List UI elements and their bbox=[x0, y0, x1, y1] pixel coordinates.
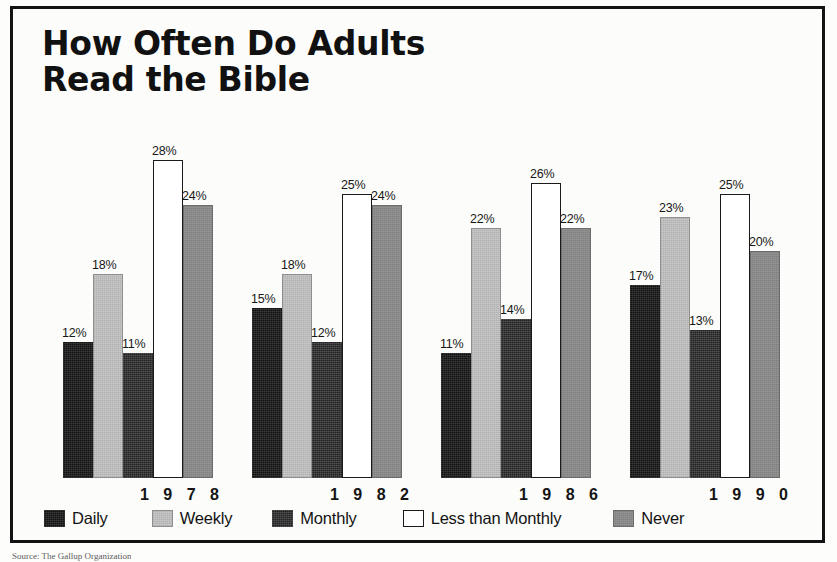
bar-value-label: 25% bbox=[719, 179, 743, 192]
bar-never-1986[interactable]: 22% bbox=[561, 120, 591, 478]
bar-rect-daily[interactable] bbox=[252, 308, 282, 478]
x-axis-year-1990: 1 9 9 0 bbox=[709, 486, 793, 504]
medium-gray-swatch bbox=[613, 510, 634, 527]
legend-item-never[interactable]: Never bbox=[613, 509, 684, 528]
bar-value-label: 18% bbox=[281, 259, 305, 272]
bar-rect-daily[interactable] bbox=[441, 353, 471, 478]
bar-group-bars: 17%23%13%25%20% bbox=[630, 120, 780, 478]
bar-value-label: 11% bbox=[122, 338, 146, 351]
bar-rect-less-than-monthly[interactable] bbox=[153, 160, 183, 478]
bar-group-bars: 11%22%14%26%22% bbox=[441, 120, 591, 478]
white-outline-swatch bbox=[403, 510, 424, 527]
x-axis-year-1978: 1 9 7 8 bbox=[140, 486, 224, 504]
bar-less-than-monthly-1982[interactable]: 25% bbox=[342, 120, 372, 478]
page-title: How Often Do Adults Read the Bible bbox=[42, 26, 602, 97]
bar-value-label: 12% bbox=[62, 327, 86, 340]
legend-item-label: Weekly bbox=[180, 509, 233, 528]
bar-value-label: 25% bbox=[341, 179, 365, 192]
bar-value-label: 17% bbox=[629, 270, 653, 283]
bar-rect-monthly[interactable] bbox=[690, 330, 720, 478]
bar-value-label: 18% bbox=[92, 259, 116, 272]
legend-item-monthly[interactable]: Monthly bbox=[272, 509, 356, 528]
black-swatch bbox=[44, 510, 65, 527]
bar-value-label: 22% bbox=[470, 213, 494, 226]
legend-item-daily[interactable]: Daily bbox=[44, 509, 108, 528]
bar-less-than-monthly-1986[interactable]: 26% bbox=[531, 120, 561, 478]
bar-never-1978[interactable]: 24% bbox=[183, 120, 213, 478]
bar-rect-weekly[interactable] bbox=[282, 274, 312, 478]
bar-rect-weekly[interactable] bbox=[471, 228, 501, 478]
bar-value-label: 20% bbox=[749, 236, 773, 249]
bar-monthly-1982[interactable]: 12% bbox=[312, 120, 342, 478]
bar-daily-1982[interactable]: 15% bbox=[252, 120, 282, 478]
bar-daily-1986[interactable]: 11% bbox=[441, 120, 471, 478]
bar-daily-1990[interactable]: 17% bbox=[630, 120, 660, 478]
bar-value-label: 24% bbox=[371, 190, 395, 203]
bar-value-label: 15% bbox=[251, 293, 275, 306]
legend-item-label: Never bbox=[641, 509, 684, 528]
bar-weekly-1990[interactable]: 23% bbox=[660, 120, 690, 478]
bar-rect-daily[interactable] bbox=[630, 285, 660, 478]
bar-never-1982[interactable]: 24% bbox=[372, 120, 402, 478]
bar-rect-monthly[interactable] bbox=[312, 342, 342, 478]
bar-value-label: 14% bbox=[500, 304, 524, 317]
light-gray-swatch bbox=[152, 510, 173, 527]
bar-rect-monthly[interactable] bbox=[123, 353, 153, 478]
bar-group-bars: 12%18%11%28%24% bbox=[63, 120, 213, 478]
bar-value-label: 26% bbox=[530, 168, 554, 181]
dark-gray-swatch bbox=[272, 510, 293, 527]
bar-rect-less-than-monthly[interactable] bbox=[342, 194, 372, 478]
bar-weekly-1986[interactable]: 22% bbox=[471, 120, 501, 478]
bar-weekly-1982[interactable]: 18% bbox=[282, 120, 312, 478]
chart-page: How Often Do Adults Read the Bible 12%18… bbox=[0, 0, 837, 562]
bar-rect-never[interactable] bbox=[750, 251, 780, 478]
legend-item-label: Monthly bbox=[300, 509, 356, 528]
source-caption: Source: The Gallup Organization bbox=[12, 551, 131, 562]
legend-item-label: Less than Monthly bbox=[431, 509, 562, 528]
x-axis-year-1982: 1 9 8 2 bbox=[330, 486, 414, 504]
bar-rect-less-than-monthly[interactable] bbox=[531, 183, 561, 478]
bar-monthly-1990[interactable]: 13% bbox=[690, 120, 720, 478]
bar-value-label: 12% bbox=[311, 327, 335, 340]
bar-value-label: 23% bbox=[659, 202, 683, 215]
legend-item-less-than-monthly[interactable]: Less than Monthly bbox=[403, 509, 562, 528]
bar-rect-daily[interactable] bbox=[63, 342, 93, 478]
bar-weekly-1978[interactable]: 18% bbox=[93, 120, 123, 478]
bar-value-label: 11% bbox=[440, 338, 464, 351]
chart-legend: DailyWeeklyMonthlyLess than MonthlyNever bbox=[44, 509, 804, 528]
bar-value-label: 13% bbox=[689, 315, 713, 328]
bar-value-label: 28% bbox=[152, 145, 176, 158]
bar-never-1990[interactable]: 20% bbox=[750, 120, 780, 478]
bar-rect-never[interactable] bbox=[183, 205, 213, 478]
bar-rect-never[interactable] bbox=[372, 205, 402, 478]
legend-item-label: Daily bbox=[72, 509, 108, 528]
bar-less-than-monthly-1990[interactable]: 25% bbox=[720, 120, 750, 478]
bar-monthly-1978[interactable]: 11% bbox=[123, 120, 153, 478]
bar-rect-monthly[interactable] bbox=[501, 319, 531, 478]
x-axis-year-1986: 1 9 8 6 bbox=[519, 486, 603, 504]
bar-less-than-monthly-1978[interactable]: 28% bbox=[153, 120, 183, 478]
bar-value-label: 22% bbox=[560, 213, 584, 226]
bar-value-label: 24% bbox=[182, 190, 206, 203]
bar-daily-1978[interactable]: 12% bbox=[63, 120, 93, 478]
legend-item-weekly[interactable]: Weekly bbox=[152, 509, 233, 528]
bar-rect-weekly[interactable] bbox=[93, 274, 123, 478]
bar-rect-never[interactable] bbox=[561, 228, 591, 478]
bar-chart-plot-area: 12%18%11%28%24%1 9 7 815%18%12%25%24%1 9… bbox=[30, 120, 810, 478]
bar-rect-less-than-monthly[interactable] bbox=[720, 194, 750, 478]
bar-group-bars: 15%18%12%25%24% bbox=[252, 120, 402, 478]
bar-rect-weekly[interactable] bbox=[660, 217, 690, 478]
bar-monthly-1986[interactable]: 14% bbox=[501, 120, 531, 478]
